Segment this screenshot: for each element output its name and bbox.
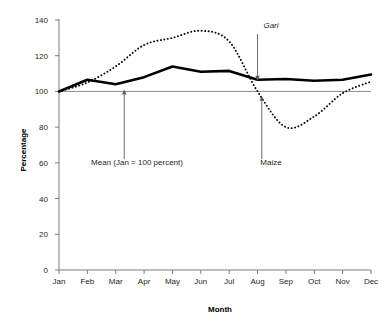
annotation-label: Maize bbox=[260, 158, 282, 167]
y-tick-label: 100 bbox=[35, 87, 49, 96]
annotation-arrow-head bbox=[122, 89, 126, 94]
annotation-label: Gari bbox=[263, 21, 278, 30]
line-chart: 020406080100120140 JanFebMarAprMayJunJul… bbox=[0, 0, 391, 326]
annotation-mean: Mean (Jan = 100 percent) bbox=[91, 89, 183, 167]
series-line-gari bbox=[59, 66, 371, 91]
x-tick-label: Jul bbox=[224, 277, 234, 286]
annotations-layer: GariMean (Jan = 100 percent)Maize bbox=[91, 21, 282, 167]
x-tick-label: Jan bbox=[53, 277, 66, 286]
chart-container: 020406080100120140 JanFebMarAprMayJunJul… bbox=[0, 0, 391, 326]
y-tick-label: 40 bbox=[39, 195, 48, 204]
x-axis-title: Month bbox=[208, 305, 232, 314]
y-tick-label: 60 bbox=[39, 159, 48, 168]
y-tick-label: 0 bbox=[44, 266, 49, 275]
y-axis-title: Percentage bbox=[19, 128, 28, 172]
x-tick-label: May bbox=[165, 277, 180, 286]
annotation-gari: Gari bbox=[255, 21, 278, 81]
x-tick-label: Nov bbox=[336, 277, 350, 286]
annotation-label: Mean (Jan = 100 percent) bbox=[91, 158, 183, 167]
x-tick-label: Apr bbox=[138, 277, 151, 286]
x-axis-tick-marks bbox=[59, 270, 371, 274]
x-tick-label: Jun bbox=[194, 277, 207, 286]
y-axis-tick-labels: 020406080100120140 bbox=[35, 16, 49, 275]
x-tick-label: Mar bbox=[109, 277, 123, 286]
x-tick-label: Sep bbox=[279, 277, 294, 286]
x-tick-label: Feb bbox=[80, 277, 94, 286]
y-tick-label: 80 bbox=[39, 123, 48, 132]
y-tick-label: 140 bbox=[35, 16, 49, 25]
y-tick-label: 20 bbox=[39, 230, 48, 239]
x-tick-label: Dec bbox=[364, 277, 378, 286]
x-axis-tick-labels: JanFebMarAprMayJunJulAugSepOctNovDec bbox=[53, 277, 379, 286]
x-tick-label: Aug bbox=[250, 277, 264, 286]
y-tick-label: 120 bbox=[35, 52, 49, 61]
x-tick-label: Oct bbox=[308, 277, 321, 286]
annotation-maize: Maize bbox=[260, 96, 283, 167]
y-axis-tick-marks bbox=[55, 20, 59, 270]
